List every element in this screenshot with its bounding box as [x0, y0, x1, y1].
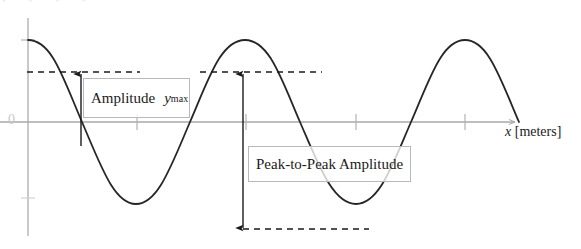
peak-to-peak-annotation-box: Peak-to-Peak Amplitude [248, 146, 411, 182]
origin-tick-label: 0 [8, 112, 15, 128]
wave-amplitude-figure: • • • • [0, 0, 581, 249]
x-axis-units-text: [meters] [515, 124, 562, 139]
x-axis-variable-symbol: x [505, 124, 511, 139]
amplitude-annotation-box: Amplitudeymax [83, 78, 190, 118]
amplitude-variable-symbol: y [164, 90, 171, 107]
amplitude-variable-subscript: max [171, 93, 189, 104]
amplitude-label-text: Amplitude [91, 90, 155, 107]
wave-diagram-canvas [0, 0, 581, 249]
x-axis-label: x [meters] [505, 124, 561, 140]
peak-to-peak-label-text: Peak-to-Peak Amplitude [256, 156, 403, 173]
